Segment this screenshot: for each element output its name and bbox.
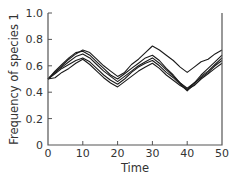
x-tick-label: 0 [45, 147, 52, 160]
x-tick-label: 10 [76, 147, 90, 160]
y-axis-title: Frequency of species 1 [7, 13, 21, 145]
x-tick-label: 40 [180, 147, 194, 160]
x-axis-ticks: 01020304050 [45, 141, 230, 160]
x-axis-title: Time [120, 161, 149, 175]
y-tick-label: 0.6 [26, 60, 44, 73]
line-chart: 01020304050 00.20.40.60.81.0 Time Freque… [0, 0, 237, 181]
y-tick-label: 0 [36, 139, 43, 152]
y-tick-label: 0.8 [26, 33, 44, 46]
x-tick-label: 30 [145, 147, 159, 160]
y-tick-label: 1.0 [26, 7, 44, 20]
y-tick-label: 0.4 [26, 86, 44, 99]
series-lines [48, 46, 222, 91]
y-tick-label: 0.2 [26, 113, 44, 126]
x-tick-label: 50 [215, 147, 229, 160]
plot-frame [48, 13, 222, 145]
series-line-5 [48, 59, 222, 89]
x-tick-label: 20 [111, 147, 125, 160]
